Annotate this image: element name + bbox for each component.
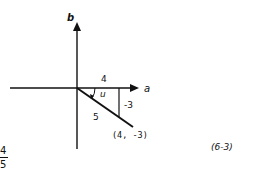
fraction-denominator: 5 (0, 159, 10, 170)
vertical-leg-label: -3 (124, 101, 133, 110)
vector-length-label: 5 (93, 113, 99, 122)
point-label: (4, -3) (112, 131, 148, 140)
fraction: 4 5 (0, 145, 10, 170)
horizontal-leg-label-text: 4 (101, 75, 107, 84)
vertical-axis-arrowhead-icon (73, 22, 81, 31)
equation-number: (6-3) (211, 143, 233, 152)
horizontal-axis-arrowhead-icon (130, 84, 139, 92)
angle-label: u (100, 90, 106, 99)
fraction-bar (0, 157, 8, 158)
vertical-axis-label: b (67, 13, 74, 23)
fraction-numerator: 4 (0, 145, 10, 156)
horizontal-axis-label: a (144, 84, 150, 94)
